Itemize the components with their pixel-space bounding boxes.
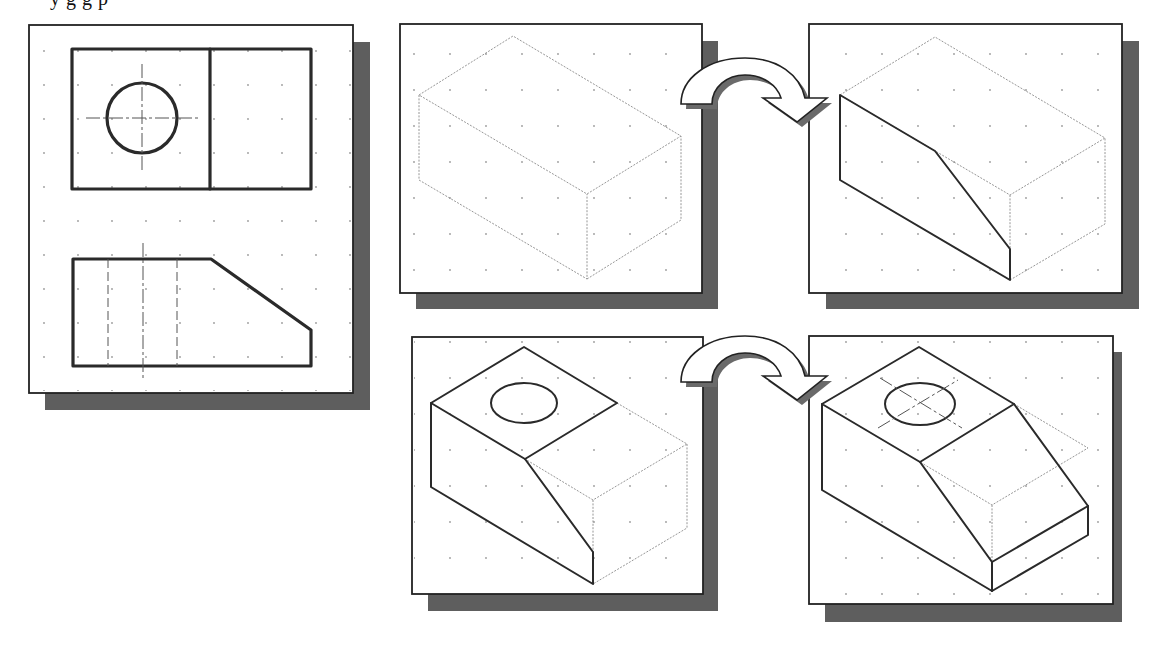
panel-step-1-box — [400, 24, 718, 309]
grid-dots — [811, 26, 1120, 291]
panel-step-3-hole — [412, 337, 718, 611]
figure-canvas — [0, 0, 1163, 658]
grid-dots — [31, 27, 351, 391]
panel-step-4-complete — [809, 336, 1122, 622]
grid-dots — [402, 26, 700, 291]
panel-orthographic-views — [29, 25, 370, 410]
grid-dots — [811, 338, 1111, 602]
grid-dots — [414, 339, 701, 592]
panel-step-2-slant — [809, 24, 1139, 309]
